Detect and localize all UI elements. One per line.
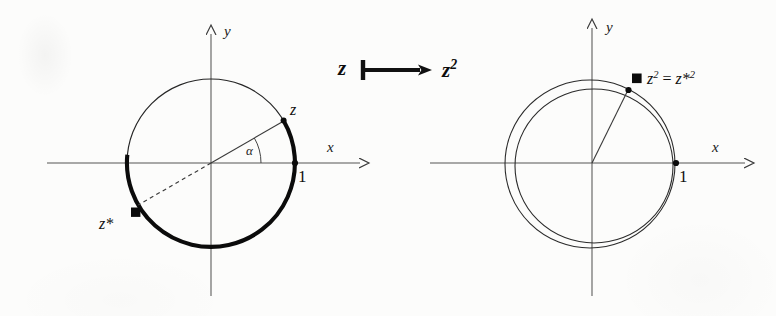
right-unit-point-label: 1 [679, 168, 688, 185]
right-diagram-group [430, 28, 745, 296]
left-y-axis-label: y [224, 24, 231, 39]
diagram-vector-layer [0, 0, 776, 316]
map-target-exponent: 2 [450, 57, 457, 72]
left-angle-arc [254, 138, 261, 163]
left-x-axis-label: x [327, 140, 334, 155]
figure-canvas: y x z 1 z* α z z2 y x 1 z2 = z*2 [0, 0, 776, 316]
left-unit-point-label: 1 [298, 168, 307, 185]
map-target-base: z [442, 58, 450, 82]
left-z-label: z [290, 102, 296, 118]
left-diagram-group [47, 34, 360, 296]
right-x-axis-label: x [712, 140, 719, 155]
left-point-z-conj [131, 208, 140, 217]
right-outer-loop [505, 80, 675, 248]
right-marker-square [632, 74, 642, 84]
left-point-z [281, 118, 287, 124]
right-result-conj-exponent: 2 [690, 69, 695, 80]
left-radius-to-z-conj [138, 163, 211, 205]
right-point-z-squared [625, 87, 631, 93]
right-result-equals: = [663, 70, 672, 87]
map-target-label: z2 [442, 58, 457, 81]
right-inner-loop [515, 89, 673, 243]
map-source-label: z [338, 58, 346, 79]
right-point-one [673, 160, 679, 166]
left-angle-label: α [246, 144, 253, 157]
right-y-axis-label: y [606, 20, 613, 35]
right-radius-to-image-point [592, 90, 628, 163]
maps-to-arrow-icon [363, 60, 420, 80]
right-result-label: z2 = z*2 [647, 70, 695, 87]
left-z-conj-label: z* [99, 216, 113, 232]
right-result-conj-base: z* [676, 70, 690, 87]
left-point-one [292, 160, 298, 166]
